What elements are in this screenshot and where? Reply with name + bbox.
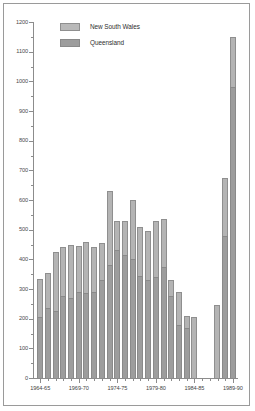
bar-stack: [68, 245, 74, 379]
bar-segment-queensland: [145, 280, 151, 378]
bar-segment-new-south-wales: [176, 292, 182, 325]
bar-segment-queensland: [37, 317, 43, 378]
bar-segment-queensland: [114, 250, 120, 378]
bar-segment-new-south-wales: [122, 221, 128, 255]
bar-segment-new-south-wales: [222, 178, 228, 236]
bar-stack: [130, 200, 136, 378]
bar-segment-new-south-wales: [91, 247, 97, 292]
bar-segment-new-south-wales: [99, 243, 105, 280]
bar-stack: [83, 242, 89, 378]
bar-stack: [230, 37, 236, 378]
bar-segment-new-south-wales: [137, 227, 143, 276]
bar-segment-new-south-wales: [184, 316, 190, 328]
bar-segment-new-south-wales: [130, 200, 136, 259]
bar-stack: [191, 317, 197, 378]
bar-segment-queensland: [153, 277, 159, 378]
bar-segment-queensland: [137, 276, 143, 378]
bar-segment-new-south-wales: [60, 247, 66, 296]
bar-segment-new-south-wales: [45, 273, 51, 309]
bar-stack: [37, 279, 43, 378]
bar-segment-queensland: [68, 298, 74, 378]
bar-stack: [122, 221, 128, 378]
bar-segment-new-south-wales: [145, 231, 151, 280]
bar-segment-new-south-wales: [53, 252, 59, 311]
bar-segment-new-south-wales: [68, 245, 74, 298]
bar-segment-new-south-wales: [230, 37, 236, 87]
bar-segment-queensland: [83, 293, 89, 378]
legend-item-new-south-wales: New South Wales: [60, 20, 140, 33]
bar-stack: [137, 227, 143, 378]
bar-segment-new-south-wales: [114, 221, 120, 251]
bar-segment-queensland: [53, 311, 59, 378]
bar-stack: [222, 178, 228, 378]
bar-segment-new-south-wales: [37, 279, 43, 318]
bar-segment-queensland: [176, 325, 182, 378]
bar-segment-queensland: [222, 236, 228, 378]
bar-segment-queensland: [60, 296, 66, 378]
bar-segment-new-south-wales: [191, 317, 197, 378]
legend-label-new-south-wales: New South Wales: [90, 23, 140, 30]
bar-stack: [168, 280, 174, 378]
bar-segment-new-south-wales: [107, 191, 113, 265]
bar-segment-queensland: [184, 328, 190, 378]
bar-stack: [60, 247, 66, 378]
bar-segment-queensland: [99, 280, 105, 378]
bar-segment-new-south-wales: [153, 221, 159, 277]
bar-stack: [107, 191, 113, 378]
bar-stack: [91, 247, 97, 378]
bar-segment-queensland: [91, 292, 97, 378]
bar-segment-new-south-wales: [83, 242, 89, 294]
bar-stack: [145, 231, 151, 378]
bar-stack: [114, 221, 120, 378]
bar-stack: [184, 316, 190, 378]
bar-segment-queensland: [122, 255, 128, 378]
bar-stack: [45, 273, 51, 378]
legend-swatch-queensland: [60, 39, 80, 47]
bar-stack: [153, 221, 159, 378]
bar-segment-new-south-wales: [161, 219, 167, 266]
bar-stack: [176, 292, 182, 378]
bar-segment-queensland: [230, 87, 236, 378]
bar-segment-new-south-wales: [76, 246, 82, 292]
bar-stack: [161, 219, 167, 378]
chart-plot-area: 0100200300400500600700800900100011001200…: [0, 0, 255, 411]
bar-segment-new-south-wales: [214, 305, 220, 378]
bar-segment-queensland: [45, 308, 51, 378]
bar-segment-queensland: [168, 296, 174, 378]
bar-segment-queensland: [130, 259, 136, 378]
bar-segment-queensland: [107, 265, 113, 378]
legend-item-queensland: Queensland: [60, 36, 140, 49]
bar-stack: [99, 243, 105, 378]
chart-legend: New South Wales Queensland: [60, 20, 140, 52]
bar-stack: [214, 305, 220, 378]
bar-stack: [76, 246, 82, 378]
bar-segment-queensland: [161, 267, 167, 378]
bar-series-group: [0, 0, 255, 411]
bar-segment-new-south-wales: [168, 280, 174, 296]
legend-label-queensland: Queensland: [90, 39, 124, 46]
bar-stack: [53, 252, 59, 378]
bar-segment-queensland: [76, 292, 82, 378]
legend-swatch-new-south-wales: [60, 23, 80, 31]
